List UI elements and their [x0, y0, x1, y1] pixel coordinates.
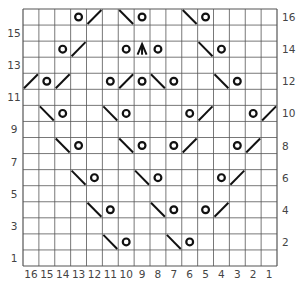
- column-label: 14: [56, 268, 70, 280]
- yarn-over-icon: [59, 46, 66, 53]
- yarn-over-icon: [155, 46, 162, 53]
- ssk-icon: [167, 235, 181, 249]
- yarn-over-icon: [123, 46, 130, 53]
- yarn-over-icon: [250, 110, 257, 117]
- row-label: 4: [282, 204, 289, 216]
- row-label: 9: [11, 123, 18, 135]
- row-label: 13: [7, 59, 20, 71]
- row-label: 11: [7, 91, 20, 103]
- yarn-over-icon: [139, 142, 146, 149]
- yarn-over-icon: [234, 142, 241, 149]
- row-label: 14: [282, 43, 296, 55]
- k2tog-icon: [72, 42, 86, 56]
- ssk-icon: [119, 10, 133, 24]
- double-decrease-icon: [138, 44, 147, 55]
- yarn-over-icon: [234, 78, 241, 85]
- ssk-icon: [88, 203, 102, 217]
- yarn-over-icon: [170, 78, 177, 85]
- yarn-over-icon: [186, 110, 193, 117]
- row-label: 5: [11, 188, 18, 200]
- yarn-over-icon: [75, 14, 82, 21]
- yarn-over-icon: [43, 78, 50, 85]
- yarn-over-icon: [75, 142, 82, 149]
- k2tog-icon: [246, 139, 260, 153]
- column-label: 1: [266, 268, 273, 280]
- row-label: 7: [11, 156, 18, 168]
- column-label: 12: [88, 268, 101, 280]
- yarn-over-icon: [59, 110, 66, 117]
- ssk-icon: [215, 74, 229, 88]
- row-label: 1: [11, 252, 18, 264]
- column-label: 2: [250, 268, 257, 280]
- ssk-icon: [56, 139, 70, 153]
- ssk-icon: [135, 171, 149, 185]
- k2tog-icon: [183, 139, 197, 153]
- row-label: 16: [282, 11, 296, 23]
- yarn-over-icon: [91, 174, 98, 181]
- k2tog-icon: [56, 74, 70, 88]
- yarn-over-icon: [170, 142, 177, 149]
- k2tog-icon: [88, 10, 102, 24]
- ssk-icon: [40, 106, 54, 120]
- yarn-over-icon: [155, 174, 162, 181]
- ssk-icon: [151, 203, 165, 217]
- column-label: 11: [104, 268, 117, 280]
- ssk-icon: [103, 235, 117, 249]
- yarn-over-icon: [202, 206, 209, 213]
- column-label: 4: [218, 268, 225, 280]
- row-label: 15: [7, 27, 20, 39]
- knitting-chart: 16151413121110987654321 1513119753116141…: [0, 0, 299, 293]
- yarn-over-icon: [139, 78, 146, 85]
- ssk-icon: [72, 171, 86, 185]
- ssk-icon: [151, 74, 165, 88]
- column-label: 16: [24, 268, 38, 280]
- k2tog-icon: [24, 74, 38, 88]
- k2tog-icon: [199, 106, 213, 120]
- yarn-over-icon: [123, 239, 130, 246]
- k2tog-icon: [119, 74, 133, 88]
- yarn-over-icon: [107, 206, 114, 213]
- row-label: 8: [282, 140, 289, 152]
- k2tog-icon: [230, 171, 244, 185]
- column-label: 15: [40, 268, 53, 280]
- column-label: 8: [155, 268, 162, 280]
- ssk-icon: [183, 10, 197, 24]
- row-label: 6: [282, 172, 289, 184]
- row-label: 12: [282, 75, 295, 87]
- k2tog-icon: [262, 106, 276, 120]
- yarn-over-icon: [218, 46, 225, 53]
- row-label: 10: [282, 107, 295, 119]
- yarn-over-icon: [170, 206, 177, 213]
- column-labels: 16151413121110987654321: [24, 268, 272, 280]
- ssk-icon: [199, 42, 213, 56]
- column-label: 5: [202, 268, 209, 280]
- column-label: 6: [186, 268, 193, 280]
- yarn-over-icon: [186, 239, 193, 246]
- yarn-over-icon: [123, 110, 130, 117]
- yarn-over-icon: [107, 78, 114, 85]
- yarn-over-icon: [139, 14, 146, 21]
- ssk-icon: [103, 106, 117, 120]
- row-label: 2: [282, 236, 289, 248]
- k2tog-icon: [215, 203, 229, 217]
- column-label: 13: [72, 268, 85, 280]
- row-label: 3: [11, 220, 18, 232]
- column-label: 7: [170, 268, 177, 280]
- chart-grid: [23, 9, 277, 266]
- column-label: 3: [234, 268, 241, 280]
- yarn-over-icon: [202, 14, 209, 21]
- column-label: 9: [139, 268, 146, 280]
- yarn-over-icon: [218, 174, 225, 181]
- column-label: 10: [120, 268, 133, 280]
- ssk-icon: [119, 139, 133, 153]
